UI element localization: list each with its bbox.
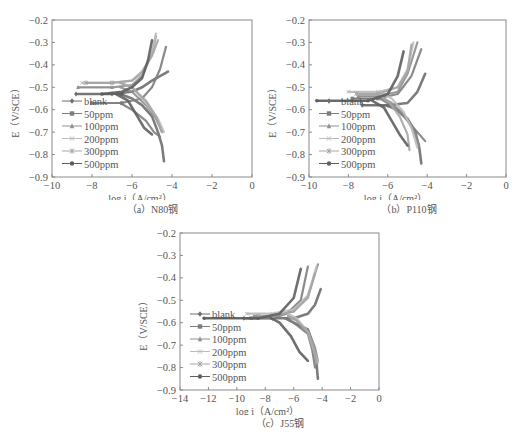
legend-label: 200ppm [84,134,118,145]
y-tick-label: −0.3 [29,37,48,48]
x-tick-label: 0 [503,180,508,191]
y-axis-label: E（V/SCE） [138,296,149,350]
x-tick-label: −2 [206,180,217,191]
x-tick-label: −2 [345,393,356,404]
x-axis-label: log i（A/cm²） [108,193,171,200]
legend-label: blank [341,96,365,107]
square-marker-icon [120,101,124,105]
x-tick-label: −6 [288,393,299,404]
diamond-marker-icon [198,311,202,317]
square-marker-icon [70,111,74,115]
x-tick-label: −4 [166,180,178,191]
anodic-curve [78,36,156,88]
legend: blank50ppm100ppm200ppm300ppm500ppm [190,309,246,383]
y-tick-label: −0.8 [157,362,176,373]
x-tick-label: −2 [461,180,472,191]
legend-label: 100ppm [84,121,118,132]
legend-label: 500ppm [341,159,375,170]
y-tick-label: −0.7 [157,340,176,351]
y-tick-label: −0.8 [286,149,305,160]
x-axis-label: log i（A/cm²） [364,193,427,200]
chart-a-plot: −0.2−0.3−0.4−0.5−0.6−0.7−0.8−0.9−10−8−6−… [0,0,260,200]
chart-panel-c: −0.2−0.3−0.4−0.5−0.6−0.7−0.8−0.9−14−12−1… [130,215,400,438]
y-axis-label: E（V/SCE） [10,83,21,137]
y-tick-label: −0.7 [29,127,48,138]
legend-label: 50ppm [84,109,113,120]
chart-c-caption: （c）J55钢 [130,415,430,430]
legend-label: 300ppm [84,146,118,157]
diamond-marker-icon [70,98,74,104]
legend-label: 500ppm [84,159,118,170]
circle-marker-icon [315,99,319,103]
y-tick-label: −0.5 [286,82,305,93]
y-tick-label: −0.4 [157,272,177,283]
x-tick-label: −8 [343,180,354,191]
x-axis-label: log i（A/cm²） [236,406,299,415]
square-marker-icon [198,324,202,328]
chart-panel-a: −0.2−0.3−0.4−0.5−0.6−0.7−0.8−0.9−10−8−6−… [0,0,260,218]
x-tick-label: 0 [249,180,254,191]
x-tick-label: 0 [376,393,381,404]
cathodic-curve [120,94,164,161]
y-tick-label: −0.6 [286,104,305,115]
x-tick-label: −12 [200,393,216,404]
x-tick-label: −4 [422,180,434,191]
circle-marker-icon [70,161,74,165]
y-tick-label: −0.3 [286,37,305,48]
legend-label: 100ppm [212,334,246,345]
y-tick-label: −0.6 [29,104,48,115]
y-tick-label: −0.4 [29,59,49,70]
legend-label: blank [84,96,108,107]
y-tick-label: −0.6 [157,317,176,328]
anodic-curve [82,34,156,83]
y-tick-label: −0.2 [29,15,48,26]
anodic-curve [258,273,315,316]
y-tick-label: −0.3 [157,250,176,261]
legend-label: 300ppm [341,146,375,157]
y-tick-label: −0.4 [286,59,306,70]
chart-b-plot: −0.2−0.3−0.4−0.5−0.6−0.7−0.8−0.9−10−8−6−… [260,0,521,200]
diamond-marker-icon [327,98,331,104]
y-tick-label: −0.7 [286,127,305,138]
x-tick-label: −10 [229,393,245,404]
legend: blank50ppm100ppm200ppm300ppm500ppm [62,96,118,170]
x-tick-label: −8 [260,393,271,404]
legend-label: 100ppm [341,121,375,132]
x-tick-label: −14 [172,393,189,404]
legend-label: blank [212,309,236,320]
y-tick-label: −0.2 [286,15,305,26]
circle-marker-icon [256,316,260,320]
circle-marker-icon [120,92,124,96]
y-tick-label: −0.5 [29,82,48,93]
legend-label: 300ppm [212,359,246,370]
legend-label: 500ppm [212,372,246,383]
x-tick-label: −6 [382,180,393,191]
x-tick-label: −6 [126,180,137,191]
legend-label: 50ppm [341,109,370,120]
circle-marker-icon [202,316,206,320]
circle-marker-icon [198,374,202,378]
y-tick-label: −0.5 [157,295,176,306]
square-marker-icon [327,111,331,115]
y-tick-label: −0.2 [157,228,176,239]
circle-marker-icon [327,161,331,165]
circle-marker-icon [366,99,370,103]
chart-b-caption: （b）P110钢 [260,201,521,216]
x-tick-label: −8 [86,180,97,191]
plot-frame [309,20,506,177]
legend-label: 50ppm [212,322,241,333]
anodic-curve [348,42,413,91]
x-tick-label: −10 [44,180,60,191]
y-tick-label: −0.8 [29,149,48,160]
x-tick-label: −4 [317,393,329,404]
chart-panel-b: −0.2−0.3−0.4−0.5−0.6−0.7−0.8−0.9−10−8−6−… [260,0,521,218]
legend-label: 200ppm [212,347,246,358]
legend: blank50ppm100ppm200ppm300ppm500ppm [319,96,375,170]
chart-c-plot: −0.2−0.3−0.4−0.5−0.6−0.7−0.8−0.9−14−12−1… [130,215,400,415]
x-tick-label: −10 [301,180,317,191]
legend-label: 200ppm [341,134,375,145]
diamond-marker-icon [74,92,78,97]
y-axis-label: E（V/SCE） [267,83,278,137]
